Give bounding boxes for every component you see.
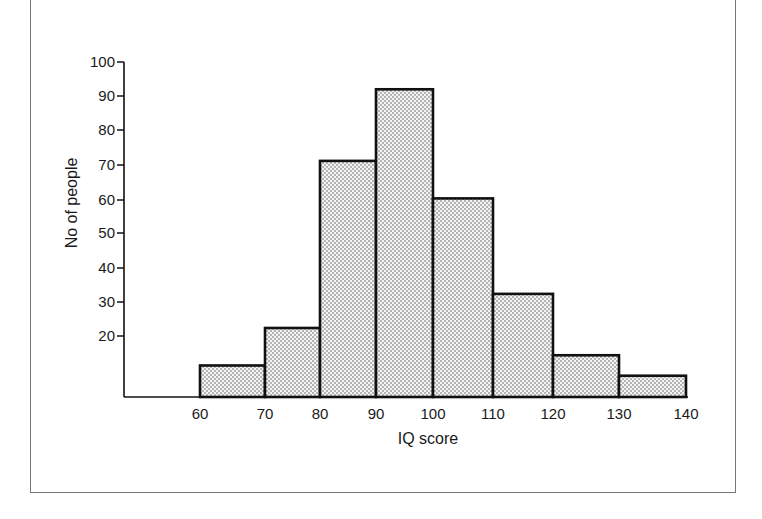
x-tick-label: 120 bbox=[540, 405, 565, 422]
y-tick-label: 30 bbox=[98, 293, 115, 310]
y-axis-title: No of people bbox=[63, 158, 80, 249]
y-ticks: 2030405060708090100 bbox=[90, 53, 124, 344]
x-tick-label: 100 bbox=[420, 405, 445, 422]
histogram-bar-100-110 bbox=[433, 198, 493, 397]
histogram-bar-130-140 bbox=[619, 376, 686, 397]
x-tick-label: 110 bbox=[481, 405, 505, 422]
x-ticks: 60708090100110120130140 bbox=[192, 405, 699, 422]
histogram-bar-90-100 bbox=[376, 89, 433, 397]
histogram-chart: 2030405060708090100 60708090100110120130… bbox=[0, 0, 762, 519]
y-tick-label: 100 bbox=[90, 53, 115, 70]
y-tick-label: 40 bbox=[98, 259, 115, 276]
x-axis-title: IQ score bbox=[398, 430, 459, 447]
y-tick-label: 90 bbox=[98, 87, 115, 104]
x-tick-label: 90 bbox=[368, 405, 385, 422]
histogram-bar-60-70 bbox=[200, 365, 265, 397]
y-tick-label: 70 bbox=[98, 156, 115, 173]
y-tick-label: 50 bbox=[98, 224, 115, 241]
y-tick-label: 80 bbox=[98, 121, 115, 138]
y-tick-label: 20 bbox=[98, 327, 115, 344]
x-tick-label: 70 bbox=[257, 405, 274, 422]
x-tick-label: 80 bbox=[312, 405, 329, 422]
x-tick-label: 140 bbox=[673, 405, 698, 422]
histogram-bar-110-120 bbox=[493, 294, 553, 397]
x-tick-label: 130 bbox=[606, 405, 631, 422]
y-tick-label: 60 bbox=[98, 191, 115, 208]
x-tick-label: 60 bbox=[192, 405, 209, 422]
histogram-bar-70-80 bbox=[265, 328, 320, 397]
histogram-bar-80-90 bbox=[320, 161, 376, 397]
bars bbox=[200, 89, 686, 397]
histogram-bar-120-130 bbox=[553, 355, 619, 397]
